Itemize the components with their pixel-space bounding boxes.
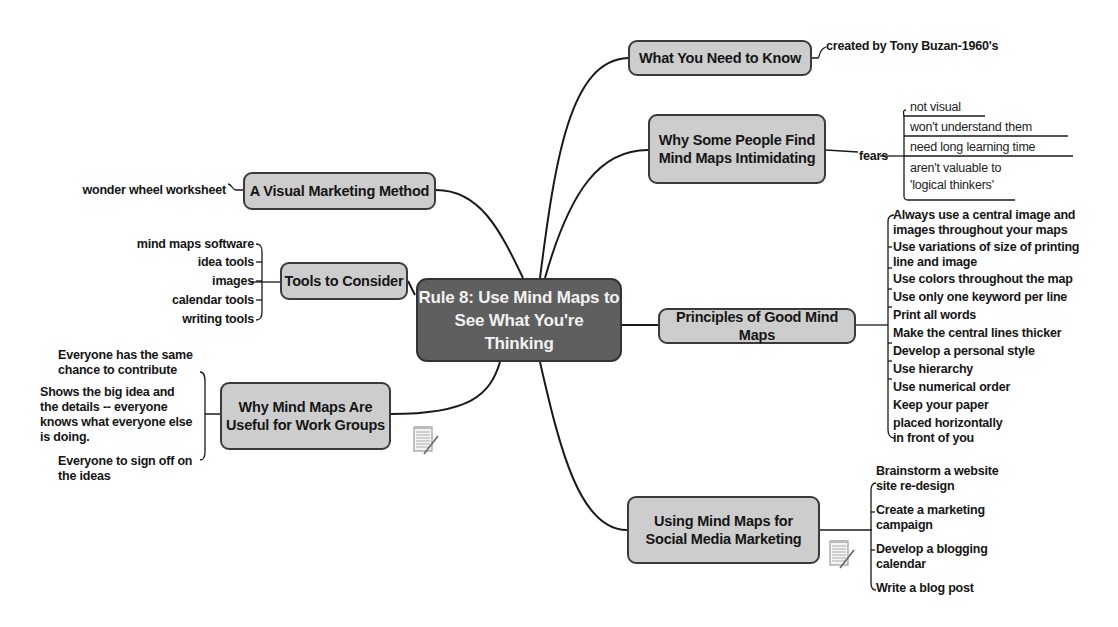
topic-label-line2: Mind Maps Intimidating: [659, 149, 816, 167]
workgroup-item-line: is doing.: [40, 430, 192, 445]
principle-line: placed horizontally: [893, 416, 1002, 431]
tool-images[interactable]: images: [110, 274, 254, 289]
topic-label-line2: Useful for Work Groups: [226, 416, 385, 434]
notepad-icon[interactable]: [828, 538, 856, 572]
central-topic-line2: See What You're Thinking: [418, 309, 620, 355]
workgroup-item-same-chance[interactable]: Everyone has the same chance to contribu…: [58, 348, 193, 378]
central-topic-line1: Rule 8: Use Mind Maps to: [418, 286, 620, 309]
central-topic[interactable]: Rule 8: Use Mind Maps to See What You're…: [416, 278, 622, 362]
workgroup-item-line: chance to contribute: [58, 363, 193, 378]
topic-label: Tools to Consider: [285, 272, 404, 290]
notepad-icon[interactable]: [412, 424, 440, 458]
social-item-line: calendar: [876, 557, 988, 572]
topic-label: A Visual Marketing Method: [250, 182, 430, 200]
social-item-line: Create a marketing: [876, 503, 985, 518]
topic-what-you-need-to-know[interactable]: What You Need to Know: [628, 40, 812, 76]
topic-label-line2: Social Media Marketing: [646, 530, 802, 548]
principle-keep-paper[interactable]: Keep your paper: [893, 398, 989, 413]
principle-personal-style[interactable]: Develop a personal style: [893, 344, 1035, 359]
fear-learning-time[interactable]: need long learning time: [910, 140, 1035, 155]
principle-line: Always use a central image and: [893, 208, 1075, 223]
workgroup-item-line: Everyone has the same: [58, 348, 193, 363]
topic-label-line1: Why Some People Find: [659, 131, 816, 149]
principle-line: Use variations of size of printing: [893, 240, 1079, 255]
principle-horizontal[interactable]: placed horizontally in front of you: [893, 416, 1002, 446]
topic-social-media-marketing[interactable]: Using Mind Maps for Social Media Marketi…: [627, 496, 820, 564]
topic-principles-good-mind-maps[interactable]: Principles of Good Mind Maps: [658, 308, 856, 344]
topic-why-people-find-intimidating[interactable]: Why Some People Find Mind Maps Intimidat…: [648, 114, 826, 184]
social-item-blog-post[interactable]: Write a blog post: [876, 581, 974, 596]
principle-line: in front of you: [893, 431, 1002, 446]
principle-thicker-lines[interactable]: Make the central lines thicker: [893, 326, 1061, 341]
topic-label: Principles of Good Mind Maps: [660, 308, 854, 344]
fear-not-valuable-line2: 'logical thinkers': [910, 178, 994, 193]
workgroup-item-line: Everyone to sign off on: [58, 454, 192, 469]
workgroup-item-line: the ideas: [58, 469, 192, 484]
workgroup-item-line: Shows the big idea and: [40, 385, 192, 400]
subtopic-wonder-wheel[interactable]: wonder wheel worksheet: [74, 183, 226, 198]
fear-not-valuable-line1[interactable]: aren't valuable to: [910, 161, 1001, 176]
social-item-redesign[interactable]: Brainstorm a website site re-design: [876, 464, 998, 494]
tool-idea-tools[interactable]: idea tools: [110, 255, 254, 270]
principle-numerical-order[interactable]: Use numerical order: [893, 380, 1010, 395]
subtopic-fears[interactable]: fears: [859, 149, 888, 164]
subtopic-created-by[interactable]: created by Tony Buzan-1960's: [826, 39, 998, 54]
principle-line: images throughout your maps: [893, 223, 1075, 238]
tool-mind-maps-software[interactable]: mind maps software: [110, 237, 254, 252]
principle-print-words[interactable]: Print all words: [893, 308, 976, 323]
topic-tools-to-consider[interactable]: Tools to Consider: [280, 262, 408, 300]
principle-line: line and image: [893, 255, 1079, 270]
topic-label-line1: Using Mind Maps for: [646, 512, 802, 530]
social-item-line: campaign: [876, 518, 985, 533]
workgroup-item-line: knows what everyone else: [40, 415, 192, 430]
social-item-campaign[interactable]: Create a marketing campaign: [876, 503, 985, 533]
topic-useful-for-work-groups[interactable]: Why Mind Maps Are Useful for Work Groups: [220, 382, 391, 450]
principle-hierarchy[interactable]: Use hierarchy: [893, 362, 973, 377]
social-item-line: Develop a blogging: [876, 542, 988, 557]
workgroup-item-big-idea[interactable]: Shows the big idea and the details -- ev…: [40, 385, 192, 445]
social-item-blogging-calendar[interactable]: Develop a blogging calendar: [876, 542, 988, 572]
social-item-line: Brainstorm a website: [876, 464, 998, 479]
workgroup-item-sign-off[interactable]: Everyone to sign off on the ideas: [58, 454, 192, 484]
topic-visual-marketing-method[interactable]: A Visual Marketing Method: [243, 172, 436, 210]
principle-size-variations[interactable]: Use variations of size of printing line …: [893, 240, 1079, 270]
principle-central-image[interactable]: Always use a central image and images th…: [893, 208, 1075, 238]
topic-label-line1: Why Mind Maps Are: [226, 398, 385, 416]
principle-colors[interactable]: Use colors throughout the map: [893, 272, 1073, 287]
fear-not-visual[interactable]: not visual: [910, 100, 961, 115]
workgroup-item-line: the details -- everyone: [40, 400, 192, 415]
tool-calendar-tools[interactable]: calendar tools: [110, 293, 254, 308]
tool-writing-tools[interactable]: writing tools: [110, 312, 254, 327]
principle-one-keyword[interactable]: Use only one keyword per line: [893, 290, 1067, 305]
fear-wont-understand[interactable]: won't understand them: [910, 120, 1032, 135]
social-item-line: site re-design: [876, 479, 998, 494]
topic-label: What You Need to Know: [639, 49, 801, 67]
